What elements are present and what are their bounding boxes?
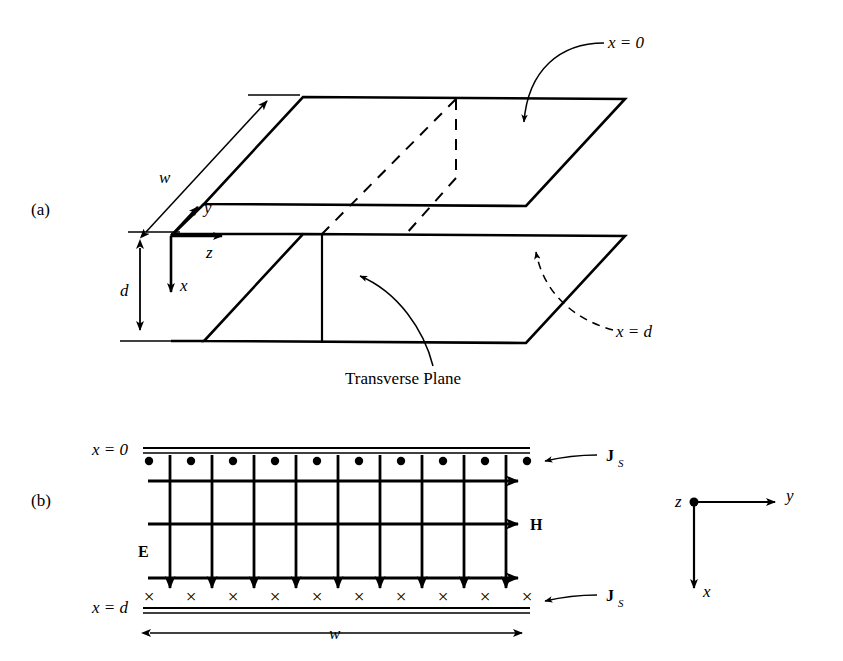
leader-js-bottom xyxy=(545,595,597,601)
svg-text:×: × xyxy=(186,586,197,607)
panel-a-label: (a) xyxy=(31,200,50,219)
panel-a-group: (a) x = 0 x = d Transverse Plane w d x y… xyxy=(31,33,653,388)
svg-text:×: × xyxy=(480,586,491,607)
label-transverse-plane: Transverse Plane xyxy=(345,369,461,388)
surface-current-crosses-bottom: × × × × × × × × × × xyxy=(144,586,533,607)
label-js-bottom-group: J S xyxy=(606,587,624,609)
label-field-H: H xyxy=(530,516,543,533)
label-x-equals-d-b: x = d xyxy=(91,598,129,617)
svg-text:×: × xyxy=(438,586,449,607)
panel-b-group: × × × × × × × × × × (b) x = 0 x = d E H xyxy=(31,440,624,643)
svg-text:×: × xyxy=(522,586,533,607)
e-field-lines xyxy=(170,455,506,588)
label-js-bottom-subscript: S xyxy=(618,597,624,609)
label-axis-z-inset: z xyxy=(674,492,682,511)
label-js-top: J xyxy=(606,447,614,464)
svg-text:×: × xyxy=(228,586,239,607)
label-d-dimension-a: d xyxy=(120,281,129,300)
svg-text:×: × xyxy=(396,586,407,607)
plate-left-edges xyxy=(171,204,303,341)
svg-text:×: × xyxy=(270,586,281,607)
panel-b-label: (b) xyxy=(31,491,51,510)
h-field-lines xyxy=(148,481,518,578)
figure-svg: (a) x = 0 x = d Transverse Plane w d x y… xyxy=(0,0,843,661)
label-w-dimension-a: w xyxy=(159,168,171,187)
label-axis-y-a: y xyxy=(202,198,212,217)
leader-transverse-plane xyxy=(360,276,433,366)
d-dimension-arrow xyxy=(120,248,178,341)
top-conductor-b xyxy=(143,448,530,453)
label-js-top-subscript: S xyxy=(618,457,624,469)
svg-text:×: × xyxy=(312,586,323,607)
label-axis-y-inset: y xyxy=(784,486,794,505)
svg-text:×: × xyxy=(144,586,155,607)
bottom-plate xyxy=(204,234,625,343)
label-w-dimension-b: w xyxy=(329,624,341,643)
top-plate xyxy=(204,97,625,206)
svg-text:×: × xyxy=(354,586,365,607)
label-x-equals-0-b: x = 0 xyxy=(91,440,129,459)
label-axis-z-a: z xyxy=(205,243,213,262)
label-js-bottom: J xyxy=(606,587,614,604)
leader-x-equals-0 xyxy=(524,43,604,122)
axis-inset-group: z y x xyxy=(674,486,794,601)
label-field-E: E xyxy=(138,543,149,560)
figure-root: (a) x = 0 x = d Transverse Plane w d x y… xyxy=(0,0,843,661)
label-x-equals-0-a: x = 0 xyxy=(607,33,645,52)
leader-js-top xyxy=(545,455,597,461)
label-js-top-group: J S xyxy=(606,447,624,469)
w-dimension-arrow xyxy=(128,95,300,232)
bottom-conductor-b xyxy=(143,608,530,613)
label-axis-x-inset: x xyxy=(702,582,711,601)
label-x-equals-d-a: x = d xyxy=(615,322,653,341)
coordinate-axes-3d xyxy=(171,207,222,292)
hidden-edges-dashed xyxy=(322,99,456,234)
label-axis-x-a: x xyxy=(179,276,188,295)
